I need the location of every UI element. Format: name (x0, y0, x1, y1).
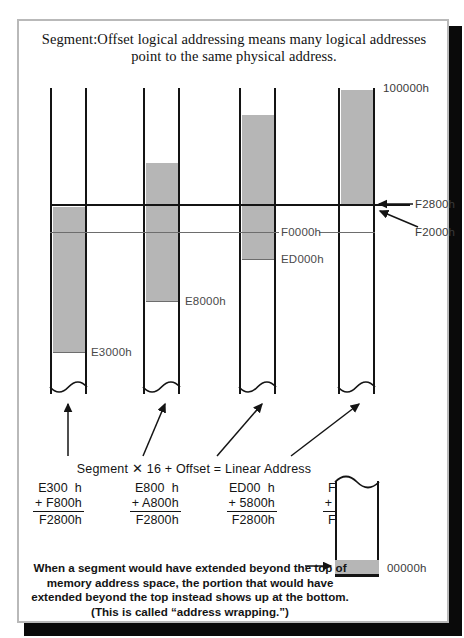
bar-3-segment-fill (242, 115, 274, 260)
sum-1-offset: + F800h (33, 496, 84, 512)
sum-3-total: F2800h (227, 512, 277, 528)
label-00000h: 00000h (387, 562, 427, 574)
label-100000h: 100000h (383, 82, 429, 94)
sum-column-1: E300 h + F800h F2800h (33, 481, 84, 528)
figure-canvas: Segment:Offset logical addressing means … (19, 21, 447, 621)
reference-line-f2800h (50, 204, 410, 206)
formula-text: Segment ✕ 16 + Offset = Linear Address (19, 461, 369, 476)
bar-2-base-tick (146, 301, 178, 302)
sum-3-offset: + 5800h (227, 496, 277, 512)
reference-line-f2000h (319, 232, 375, 233)
figure-title: Segment:Offset logical addressing means … (39, 31, 429, 65)
label-e3000h: E3000h (91, 346, 132, 358)
reference-line-f0000h (50, 232, 279, 233)
label-ed000h: ED000h (281, 253, 324, 265)
bar-1-segment-fill (53, 207, 85, 353)
bar-4-segment-fill (341, 90, 373, 205)
sum-2-offset: + A800h (130, 496, 181, 512)
sum-2-segment: E800 h (130, 481, 181, 496)
bar-3-base-tick (242, 259, 274, 260)
sum-1-segment: E300 h (33, 481, 84, 496)
label-f0000h: F0000h (281, 226, 321, 238)
sum-3-segment: ED00 h (227, 481, 277, 496)
sum-1-total: F2800h (33, 512, 84, 528)
label-e8000h: E8000h (185, 295, 226, 307)
bar-1-base-tick (53, 352, 85, 353)
sum-column-2: E800 h + A800h F2800h (130, 481, 181, 528)
label-f2800h: F2800h (415, 198, 455, 210)
sum-columns: E300 h + F800h F2800h E800 h + A800h F28… (33, 481, 373, 528)
figure-frame: Segment:Offset logical addressing means … (17, 19, 449, 623)
explanation-text: When a segment would have extended beyon… (31, 561, 349, 619)
label-f2000h: F2000h (415, 226, 455, 238)
sum-column-3: ED00 h + 5800h F2800h (227, 481, 277, 528)
sum-2-total: F2800h (130, 512, 181, 528)
